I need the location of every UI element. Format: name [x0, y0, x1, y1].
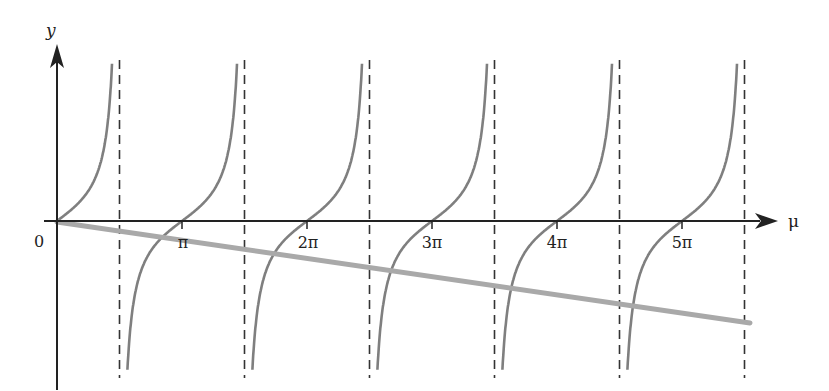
- tan-branch: [502, 64, 612, 370]
- linear-line: [57, 222, 750, 323]
- tangent-curves: [57, 64, 737, 370]
- tan-branch: [377, 64, 487, 370]
- tan-branch: [127, 64, 237, 370]
- asymptotes: [120, 60, 745, 378]
- tick-label-5pi: 5π: [672, 233, 693, 252]
- tan-branch: [252, 64, 362, 370]
- x-ticks: [182, 221, 682, 229]
- tan-branch: [627, 64, 737, 370]
- tan-intersection-chart: y μ 0 π 2π 3π 4π 5π: [0, 0, 829, 391]
- tick-label-3pi: 3π: [422, 233, 443, 252]
- tan-branch: [57, 64, 112, 221]
- y-axis-label: y: [45, 20, 56, 40]
- tick-label-2pi: 2π: [298, 233, 319, 252]
- tick-label-4pi: 4π: [547, 233, 568, 252]
- tick-label-pi: π: [178, 233, 189, 252]
- origin-label: 0: [34, 232, 44, 251]
- x-axis-label: μ: [788, 211, 799, 231]
